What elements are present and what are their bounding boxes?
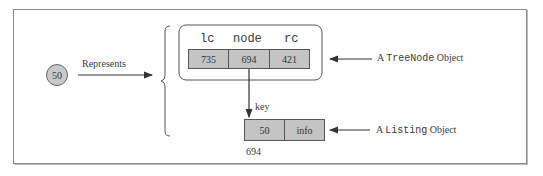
listing-object-label: A Listing Object	[376, 124, 456, 136]
cell-lc: 735	[188, 49, 229, 69]
treenode-label-prefix: A	[377, 52, 386, 63]
cell-rc-value: 421	[282, 54, 297, 65]
treenode-label-suffix: Object	[434, 52, 463, 63]
treenode-label-class: TreeNode	[386, 53, 434, 64]
cell-rc: 421	[269, 49, 310, 69]
header-node: node	[233, 32, 262, 46]
listing-key-value: 50	[260, 125, 270, 136]
listing-label-suffix: Object	[427, 124, 456, 135]
listing-key-cell: 50	[244, 119, 285, 141]
value-node-circle: 50	[46, 64, 68, 86]
cell-node: 694	[228, 49, 270, 69]
listing-info-value: info	[296, 125, 312, 136]
treenode-object-label: A TreeNode Object	[377, 52, 463, 64]
represents-label: Represents	[82, 58, 126, 69]
listing-label-class: Listing	[385, 125, 427, 136]
listing-label-prefix: A	[376, 124, 385, 135]
cell-node-value: 694	[242, 54, 257, 65]
connector-lines	[0, 0, 543, 176]
value-node-text: 50	[52, 70, 62, 81]
key-label: key	[255, 101, 269, 112]
header-rc: rc	[284, 32, 298, 46]
listing-address: 694	[246, 146, 261, 157]
listing-info-cell: info	[284, 119, 325, 141]
header-lc: lc	[200, 32, 214, 46]
cell-lc-value: 735	[201, 54, 216, 65]
